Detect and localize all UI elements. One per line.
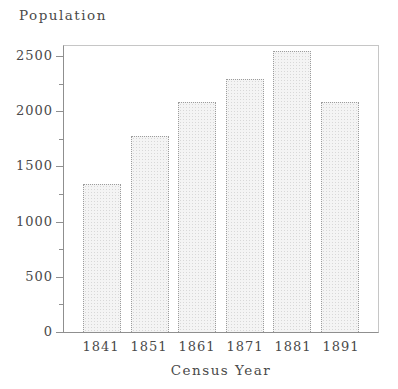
y-tick-label: 2000 [0,103,53,119]
y-major-tick [56,222,63,223]
x-tick-label: 1861 [178,339,216,354]
y-minor-tick [59,194,63,195]
y-major-tick [56,56,63,57]
y-major-tick [56,111,63,112]
y-major-tick [56,277,63,278]
bar-1891 [321,102,359,332]
y-major-tick [56,332,63,333]
y-minor-tick [59,304,63,305]
y-minor-tick [59,249,63,250]
y-minor-tick [59,139,63,140]
population-bar-chart: Population 184118511861187118811891 Cens… [0,0,398,389]
bars-container [64,46,378,332]
x-tick-label: 1881 [274,339,312,354]
y-tick-label: 1500 [0,158,53,174]
bar-1881 [273,51,311,332]
x-tick-label: 1891 [322,339,360,354]
bar-1861 [178,102,216,332]
y-tick-label: 2500 [0,48,53,64]
x-axis-labels: 184118511861187118811891 [63,339,379,354]
plot-area [63,45,379,333]
y-minor-tick [59,84,63,85]
bar-1841 [83,184,121,332]
y-tick-label: 0 [0,324,53,340]
x-axis-title: Census Year [63,362,379,378]
y-tick-label: 500 [0,269,53,285]
x-tick-label: 1871 [226,339,264,354]
y-major-tick [56,166,63,167]
y-tick-label: 1000 [0,214,53,230]
chart-title: Population [19,7,107,23]
x-tick-label: 1841 [82,339,120,354]
x-tick-label: 1851 [130,339,168,354]
bar-1851 [131,136,169,332]
bar-1871 [226,79,264,332]
